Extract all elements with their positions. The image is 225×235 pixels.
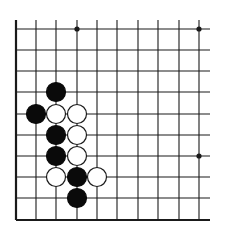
white-stone: [47, 168, 66, 187]
black-stone: [47, 83, 66, 102]
white-stone: [47, 105, 66, 124]
stones: [27, 83, 107, 208]
white-stone: [68, 147, 87, 166]
black-stone: [68, 168, 87, 187]
black-stone: [68, 189, 87, 208]
white-stone: [88, 168, 107, 187]
star-point-icon: [196, 153, 201, 158]
white-stone: [68, 105, 87, 124]
black-stone: [47, 126, 66, 145]
white-stone: [68, 126, 87, 145]
grid-lines: [16, 20, 210, 220]
star-point-icon: [74, 26, 79, 31]
star-point-icon: [196, 26, 201, 31]
black-stone: [27, 105, 46, 124]
black-stone: [47, 147, 66, 166]
go-board: [0, 0, 225, 235]
